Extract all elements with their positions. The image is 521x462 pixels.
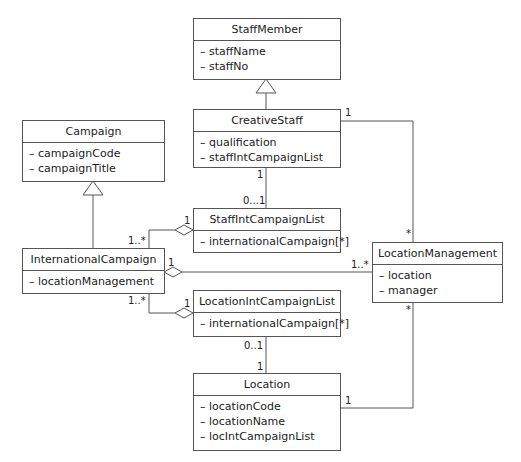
attribute: internationalCampaign[*] bbox=[200, 316, 340, 331]
class-campaign: Campaign campaignCode campaignTitle bbox=[22, 120, 165, 182]
attribute: manager bbox=[379, 283, 502, 298]
class-location: Location locationCode locationName locIn… bbox=[193, 373, 341, 451]
association-location-locmgmt bbox=[340, 302, 413, 408]
aggregation-diamond-staffintlist-icon bbox=[175, 225, 193, 235]
attribute: locIntCampaignList bbox=[200, 429, 340, 444]
association-creativestaff-locmgmt bbox=[340, 121, 413, 242]
generalization-arrow-staffmember-icon bbox=[256, 79, 276, 93]
class-staffintcampaignlist: StaffIntCampaignList internationalCampai… bbox=[193, 208, 341, 253]
multiplicity-label: 1..* bbox=[128, 296, 146, 306]
multiplicity-label: 0..1 bbox=[244, 341, 263, 351]
multiplicity-label: 1 bbox=[184, 216, 190, 226]
attribute: location bbox=[379, 268, 502, 283]
multiplicity-label: 1 bbox=[168, 258, 174, 268]
class-name: InternationalCampaign bbox=[23, 249, 164, 271]
class-creativestaff: CreativeStaff qualification staffIntCamp… bbox=[193, 109, 341, 168]
attribute: qualification bbox=[200, 135, 340, 150]
class-locationintcampaignlist: LocationIntCampaignList internationalCam… bbox=[193, 290, 341, 337]
class-locationmanagement: LocationManagement location manager bbox=[372, 242, 503, 303]
multiplicity-label: 1 bbox=[345, 108, 351, 118]
multiplicity-label: 1 bbox=[257, 362, 263, 372]
attribute: staffName bbox=[200, 44, 340, 59]
attribute-list: locationManagement bbox=[23, 271, 164, 289]
aggregation-diamond-locintlist-icon bbox=[175, 308, 193, 318]
attribute: campaignCode bbox=[29, 146, 164, 161]
aggregation-line-staffintlist bbox=[149, 230, 175, 248]
multiplicity-label: 1 bbox=[257, 170, 263, 180]
class-name: Campaign bbox=[23, 121, 164, 143]
attribute-list: location manager bbox=[373, 265, 502, 298]
class-name: StaffMember bbox=[194, 19, 340, 41]
attribute-list: campaignCode campaignTitle bbox=[23, 143, 164, 176]
multiplicity-label: * bbox=[406, 229, 411, 239]
class-name: CreativeStaff bbox=[194, 110, 340, 132]
multiplicity-label: 1 bbox=[345, 396, 351, 406]
attribute-list: locationCode locationName locIntCampaign… bbox=[194, 396, 340, 444]
multiplicity-label: 1 bbox=[184, 299, 190, 309]
attribute-list: qualification staffIntCampaignList bbox=[194, 132, 340, 165]
multiplicity-label: 1..* bbox=[128, 236, 146, 246]
attribute: staffIntCampaignList bbox=[200, 150, 340, 165]
multiplicity-label: 0...1 bbox=[243, 196, 265, 206]
attribute-list: internationalCampaign[*] bbox=[194, 231, 340, 249]
attribute: staffNo bbox=[200, 59, 340, 74]
multiplicity-label: * bbox=[406, 305, 411, 315]
aggregation-diamond-intcampaign-icon bbox=[164, 267, 182, 277]
attribute-list: internationalCampaign[*] bbox=[194, 313, 340, 331]
attribute: locationCode bbox=[200, 399, 340, 414]
class-name: LocationManagement bbox=[373, 243, 502, 265]
class-name: Location bbox=[194, 374, 340, 396]
attribute: locationManagement bbox=[29, 274, 164, 289]
attribute: locationName bbox=[200, 414, 340, 429]
attribute: internationalCampaign[*] bbox=[200, 234, 340, 249]
uml-class-diagram: StaffMember staffName staffNo CreativeSt… bbox=[0, 0, 521, 462]
aggregation-line-locintlist bbox=[149, 294, 175, 313]
class-internationalcampaign: InternationalCampaign locationManagement bbox=[22, 248, 165, 294]
multiplicity-label: 1..* bbox=[351, 260, 369, 270]
attribute-list: staffName staffNo bbox=[194, 41, 340, 74]
class-name: LocationIntCampaignList bbox=[194, 291, 340, 313]
class-staffmember: StaffMember staffName staffNo bbox=[193, 18, 341, 80]
attribute: campaignTitle bbox=[29, 161, 164, 176]
class-name: StaffIntCampaignList bbox=[194, 209, 340, 231]
generalization-arrow-campaign-icon bbox=[83, 181, 103, 195]
